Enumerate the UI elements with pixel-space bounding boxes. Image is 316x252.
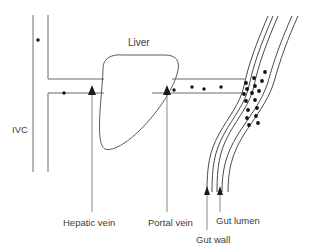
particle-gut-wall [253, 98, 257, 102]
particle-gut-wall [257, 89, 261, 93]
particle-gut-wall [255, 106, 259, 110]
label-gut-wall: Gut wall [196, 234, 230, 245]
particle-gut-wall [252, 76, 256, 80]
particle-gut-wall [245, 116, 249, 120]
particle-gut-wall [247, 123, 251, 127]
ivc-vessel [33, 15, 48, 172]
particle-gut-wall [254, 114, 258, 118]
particle-portal-vein [190, 85, 193, 88]
particle-gut-wall [253, 84, 257, 88]
leader-lines [92, 95, 220, 230]
gut-inner-left-wall [217, 16, 278, 192]
particle-portal-vein [202, 87, 205, 90]
hepatic-vein-flow-arrow [88, 85, 96, 95]
particle-gut-wall [250, 91, 254, 95]
particle-gut-wall [263, 70, 267, 74]
label-hepatic-vein: Hepatic vein [63, 217, 115, 228]
particle-hepatic-vein [62, 91, 65, 94]
particle-gut-wall [245, 87, 249, 91]
particle-ivc [36, 38, 39, 41]
particle-portal-vein [172, 88, 175, 91]
particle-gut-wall [244, 81, 248, 85]
particle-gut-wall [246, 108, 250, 112]
label-liver: Liver [128, 37, 150, 48]
label-gut-lumen: Gut lumen [216, 215, 260, 226]
physiology-diagram: IVC Liver Hepatic vein Portal vein Gut w… [0, 0, 316, 252]
gut-wall-flow-arrow [204, 186, 210, 195]
label-portal-vein: Portal vein [148, 217, 193, 228]
particle-portal-vein [219, 85, 222, 88]
particle-gut-wall [260, 79, 264, 83]
particle-gut-wall [256, 121, 260, 125]
gut-tube [207, 16, 298, 192]
flow-arrows [88, 85, 223, 195]
gut-outer-left-wall [207, 16, 268, 192]
particle-gut-wall [242, 92, 246, 96]
hepatic-vein-vessel [48, 79, 104, 93]
diagram-canvas: IVC Liver Hepatic vein Portal vein Gut w… [0, 0, 316, 252]
particle-gut-wall [244, 99, 248, 103]
particles [36, 38, 267, 127]
label-ivc: IVC [12, 124, 28, 135]
gut-right-outer-wall [228, 16, 298, 192]
